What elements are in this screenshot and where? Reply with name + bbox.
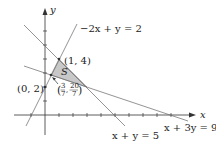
point-0-2 xyxy=(44,86,47,89)
line1-label: −2x + y = 2 xyxy=(80,23,142,34)
line3-label: x + 3y = 9 xyxy=(164,122,216,133)
point-0-2-label: (0, 2) xyxy=(17,83,44,94)
point-3-7-20-7 xyxy=(50,74,53,77)
line2-label: x + y = 5 xyxy=(112,130,159,141)
y-axis-label: y xyxy=(49,4,56,15)
y-axis-arrow-icon xyxy=(43,8,48,15)
svg-text:,: , xyxy=(66,86,68,94)
svg-text:7: 7 xyxy=(61,90,65,98)
x-axis-arrow-icon xyxy=(189,113,196,118)
line-x-plus-3y-eq-9 xyxy=(24,66,188,121)
point-fraction-label: ( 3 7 , 20 7 ) xyxy=(57,82,82,98)
svg-text:): ) xyxy=(78,84,82,97)
point-1-4 xyxy=(58,58,61,61)
region-label: S xyxy=(61,66,68,77)
pointer-arrowhead-icon xyxy=(52,77,56,81)
point-1-4-label: (1, 4) xyxy=(64,55,91,66)
svg-text:7: 7 xyxy=(72,90,76,98)
x-axis-label: x xyxy=(200,109,206,120)
linear-programming-diagram: y x −2x + y = 2 x + y = 5 x + 3y = 9 S (… xyxy=(0,0,216,147)
line-x-plus-y-eq-5 xyxy=(24,25,125,126)
svg-text:3: 3 xyxy=(61,82,65,90)
